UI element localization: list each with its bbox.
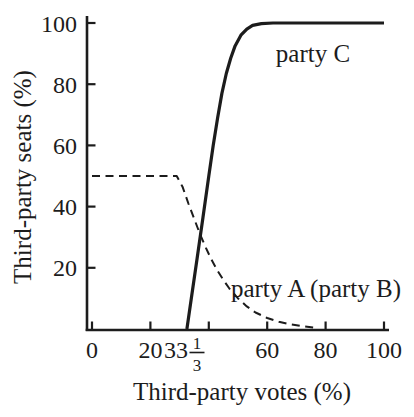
y-tick-label: 100 xyxy=(41,11,77,37)
party-c-label: party C xyxy=(276,40,350,67)
party-a-b-label: party A (party B) xyxy=(231,275,401,303)
y-tick-label: 60 xyxy=(53,133,77,159)
party-a-b-curve xyxy=(92,176,314,328)
seats-votes-chart: 0206080100 20406080100 33 1 3 party C pa… xyxy=(0,0,414,417)
y-tick-labels: 20406080100 xyxy=(41,11,77,282)
y-tick-label: 40 xyxy=(53,194,77,220)
x-axis-title: Third-party votes (%) xyxy=(133,378,351,406)
x-tick-label: 100 xyxy=(366,337,402,363)
seats-votes-figure: 0206080100 20406080100 33 1 3 party C pa… xyxy=(0,0,414,417)
x-tick-label: 80 xyxy=(314,337,338,363)
y-tick-label: 20 xyxy=(53,255,77,281)
x-tick-label: 0 xyxy=(86,337,98,363)
fraction-numerator: 1 xyxy=(193,334,202,353)
y-axis-title: Third-party seats (%) xyxy=(9,70,37,284)
fraction-whole: 33 xyxy=(164,337,188,363)
x-tick-label: 20 xyxy=(138,337,162,363)
x-tick-labels: 0206080100 xyxy=(86,337,402,363)
y-tick-label: 80 xyxy=(53,72,77,98)
fraction-denominator: 3 xyxy=(193,356,202,375)
x-tick-label-33-one-third: 33 1 3 xyxy=(164,334,205,375)
x-tick-label: 60 xyxy=(255,337,279,363)
